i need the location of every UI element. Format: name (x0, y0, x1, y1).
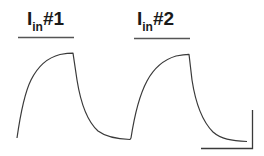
figure: Iin#1 Iin#2 (0, 0, 264, 156)
scale-bar (201, 110, 253, 149)
response-trace (17, 53, 247, 141)
trace-plot (0, 0, 264, 156)
